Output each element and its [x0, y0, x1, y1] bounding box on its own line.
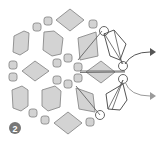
hexagon-piece-upper-middle: [43, 31, 63, 56]
small-octagon: [53, 59, 61, 67]
top-diamond-piece: [56, 9, 84, 31]
small-octagon: [64, 54, 72, 62]
seam-line: [80, 72, 125, 73]
small-octagon: [74, 63, 82, 71]
left-diamond-piece: [22, 61, 49, 81]
upper-arrow-head-icon: [150, 48, 156, 56]
lower-arrow-head-icon: [150, 92, 156, 100]
hexagon-piece-upper-left: [13, 31, 29, 55]
small-octagon: [44, 17, 52, 25]
small-octagon: [29, 109, 37, 117]
joint-circle: [119, 75, 128, 84]
hexagon-piece-lower-middle: [42, 86, 61, 111]
small-octagon: [89, 20, 97, 28]
highlighted-piece-lower: [76, 88, 95, 112]
quilt-block-diagram: 2: [0, 0, 168, 150]
small-octagon: [41, 116, 49, 124]
step-badge-label: 2: [12, 124, 17, 134]
lower-arrow-curve: [125, 82, 150, 96]
small-octagon: [86, 118, 94, 126]
small-octagon: [9, 61, 17, 69]
upper-arrow-curve: [125, 52, 150, 64]
small-octagon: [9, 73, 17, 81]
small-octagon: [33, 23, 41, 31]
small-octagon: [74, 74, 82, 82]
hexagon-piece-lower-left: [12, 86, 28, 111]
bottom-diamond-piece: [54, 112, 82, 134]
small-octagon: [53, 76, 61, 84]
small-octagon: [64, 80, 72, 88]
